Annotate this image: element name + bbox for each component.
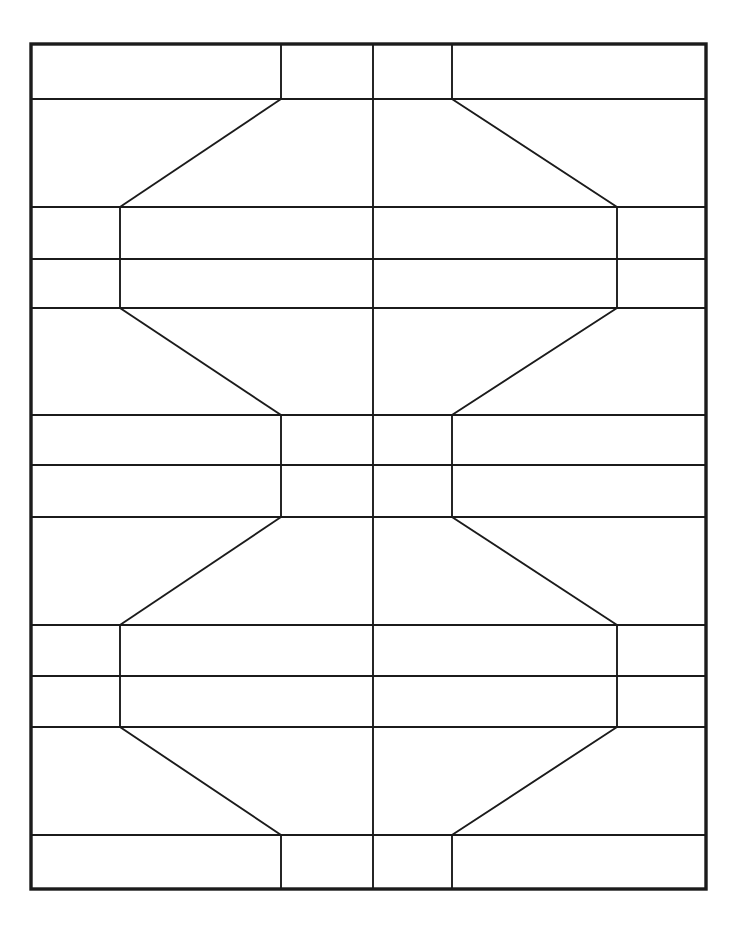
technical-line-drawing bbox=[0, 0, 748, 933]
diagram-canvas bbox=[0, 0, 748, 933]
page-background bbox=[0, 0, 748, 933]
